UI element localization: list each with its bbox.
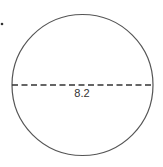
bullet-dot [1, 23, 4, 26]
circle-diagram: 8.2 [0, 0, 163, 167]
diameter-label: 8.2 [74, 87, 89, 99]
